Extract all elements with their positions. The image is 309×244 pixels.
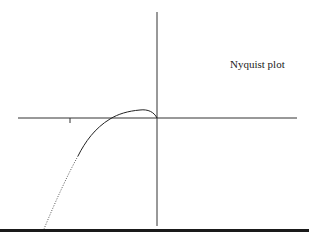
nyquist-curve-dotted	[44, 156, 78, 229]
chart-title: Nyquist plot	[230, 58, 285, 70]
nyquist-curve-solid	[78, 110, 157, 156]
nyquist-chart	[0, 0, 309, 244]
bottom-rule	[0, 229, 309, 232]
